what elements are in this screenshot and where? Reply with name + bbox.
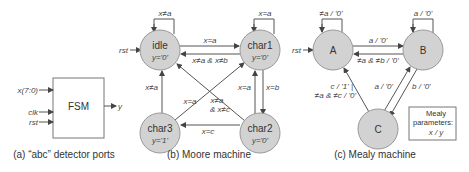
legend-line-2: parameters: <box>413 118 453 127</box>
b-to-a-label: ≠a & ≠b / '0' <box>357 56 399 65</box>
caption-a: (a) “abc” detector ports <box>13 149 115 160</box>
input-clk-label: clk <box>28 108 39 117</box>
state-char1-output: y='0' <box>251 53 269 62</box>
state-idle-output: y='0' <box>151 53 169 62</box>
a-self-label: ≠a / '0' <box>319 9 342 18</box>
c-to-a-label-2: ≠a & ≠c / '0' <box>315 91 357 100</box>
input-rst-label: rst <box>29 118 39 127</box>
state-a-name: A <box>330 45 337 56</box>
b-self-label: a / '0' <box>414 9 433 18</box>
state-char1: char1 y='0' <box>240 30 280 70</box>
char2-to-char1-label: x=a <box>237 83 252 92</box>
state-b-name: B <box>420 45 427 56</box>
char3-to-idle-label: x≠a <box>144 83 158 92</box>
state-char1-name: char1 <box>247 40 272 51</box>
char1-self-label: x=a <box>257 9 272 18</box>
state-char3-name: char3 <box>147 123 172 134</box>
panel-b-moore: rst x≠a x=a x=a x≠a & x≠b x=a x=b x≠a x=… <box>119 9 280 160</box>
state-char2: char2 y='0' <box>240 113 280 153</box>
state-c: C <box>358 109 398 149</box>
char2-to-idle-label-1: x≠a <box>210 96 224 105</box>
char2-to-idle-label-2: & x≠c <box>210 105 230 114</box>
output-y-label: y <box>117 102 123 111</box>
idle-self-label: x≠a <box>158 9 172 18</box>
mealy-rst-label: rst <box>292 46 302 55</box>
state-b: B <box>403 30 443 70</box>
panel-c-mealy: rst ≠a / '0' a / '0' a / '0' ≠a & ≠b / '… <box>292 9 456 160</box>
panel-a-ports: FSM x(7:0) clk rst y (a) “abc” detector … <box>13 78 123 160</box>
state-idle-name: idle <box>152 40 168 51</box>
fsm-diagram: FSM x(7:0) clk rst y (a) “abc” detector … <box>0 0 469 172</box>
a-to-b-label: a / '0' <box>369 36 388 45</box>
state-char3: char3 y='1' <box>140 113 180 153</box>
caption-c: (c) Mealy machine <box>334 149 416 160</box>
state-char2-output: y='0' <box>251 136 269 145</box>
c-to-b-label: a / '0' <box>374 82 393 91</box>
char3-to-char1-label: x=a <box>182 97 197 106</box>
legend-line-3: x / y <box>428 128 445 137</box>
moore-rst-label: rst <box>119 46 129 55</box>
char1-to-char2-label: x=b <box>265 83 280 92</box>
idle-to-char1-label: x=a <box>202 36 217 45</box>
state-c-name: C <box>374 124 381 135</box>
c-to-a-label-1: c / '1' | <box>331 82 353 91</box>
fsm-block-label: FSM <box>68 101 89 112</box>
char2-to-char3-label: x=c <box>201 127 215 136</box>
state-char3-output: y='1' <box>151 136 169 145</box>
state-char2-name: char2 <box>247 123 272 134</box>
input-x-label: x(7:0) <box>17 86 39 95</box>
state-a: A <box>313 30 353 70</box>
char1-to-idle-label: x≠a & x≠b <box>191 56 228 65</box>
state-idle: idle y='0' <box>140 30 180 70</box>
legend-line-1: Mealy <box>426 109 446 118</box>
b-to-c-label: b / '0' <box>412 82 431 91</box>
caption-b: (b) Moore machine <box>167 149 251 160</box>
mealy-parameters-legend: Mealy parameters: x / y <box>409 107 456 140</box>
